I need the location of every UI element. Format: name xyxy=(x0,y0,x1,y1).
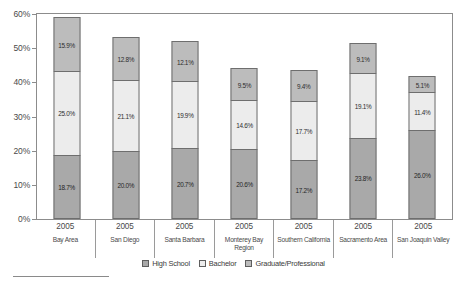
bar-group: 15.9%25.0%18.7% xyxy=(37,14,96,219)
bar-segment-label: 12.1% xyxy=(174,58,197,65)
bar-segment-label: 19.1% xyxy=(352,103,375,110)
bar-segment-label: 9.5% xyxy=(233,81,256,88)
y-tick-label: 20% xyxy=(14,146,30,156)
bar-segment: 21.1% xyxy=(112,80,139,152)
bar-segment: 25.0% xyxy=(53,71,80,156)
x-axis-year-label: 2005 xyxy=(155,222,214,231)
x-axis-category: 2005Southern California xyxy=(274,220,334,258)
x-axis-region-label: Southern California xyxy=(274,236,333,244)
x-axis-year-label: 2005 xyxy=(274,222,333,231)
x-axis-year-label: 2005 xyxy=(36,222,95,231)
bar-segment: 5.1% xyxy=(409,76,436,93)
x-axis-region-label: Santa Barbara xyxy=(155,236,214,244)
bar-group: 12.1%19.9%20.7% xyxy=(156,14,215,219)
x-axis-region-label: Monterey Bay Region xyxy=(215,236,274,251)
legend-label: Bachelor xyxy=(209,259,237,268)
bar-segment-label: 19.9% xyxy=(174,112,197,119)
bar-segment: 9.5% xyxy=(231,68,258,100)
bar-segment-label: 21.1% xyxy=(114,112,137,119)
bar-segment: 23.8% xyxy=(350,138,377,219)
y-tick-label: 50% xyxy=(14,43,30,53)
x-axis-category: 2005Bay Area xyxy=(36,220,96,258)
legend-label: Graduate/Professional xyxy=(255,259,324,268)
stacked-bar: 12.8%21.1%20.0% xyxy=(112,38,139,219)
legend-swatch-icon xyxy=(245,260,252,267)
bar-segment: 9.1% xyxy=(350,43,377,74)
scan-artifact-rule xyxy=(13,276,109,277)
x-axis-region-label: Sacramento Area xyxy=(334,236,393,244)
bar-segment-label: 17.2% xyxy=(292,186,315,193)
y-tick-label: 0% xyxy=(18,214,30,224)
x-axis-year-label: 2005 xyxy=(96,222,155,231)
legend-item[interactable]: Bachelor xyxy=(199,259,237,268)
x-axis-category-band: 2005Bay Area2005San Diego2005Santa Barba… xyxy=(36,220,453,258)
y-axis: 60%50%40%30%20%10%0% xyxy=(0,13,34,220)
y-tick-label: 10% xyxy=(14,180,30,190)
x-axis-region-label: Bay Area xyxy=(36,236,95,244)
bar-segment: 17.7% xyxy=(290,101,317,161)
x-axis-category: 2005San Joaquin Valley xyxy=(393,220,453,258)
bar-segment: 11.4% xyxy=(409,92,436,131)
bar-segment: 26.0% xyxy=(409,130,436,219)
bar-segment: 9.4% xyxy=(290,70,317,102)
bar-segment: 20.0% xyxy=(112,151,139,219)
bar-group: 5.1%11.4%26.0% xyxy=(393,14,452,219)
bar-segment-label: 9.1% xyxy=(352,55,375,62)
x-axis-category: 2005Santa Barbara xyxy=(155,220,215,258)
bar-group: 12.8%21.1%20.0% xyxy=(96,14,155,219)
bar-segment: 12.8% xyxy=(112,37,139,81)
bar-segment: 12.1% xyxy=(172,41,199,82)
bar-group: 9.1%19.1%23.8% xyxy=(333,14,392,219)
bar-segment-label: 18.7% xyxy=(55,184,78,191)
y-tick-label: 30% xyxy=(14,112,30,122)
stacked-bar: 9.1%19.1%23.8% xyxy=(350,44,377,219)
stacked-bar-chart: 60%50%40%30%20%10%0% 15.9%25.0%18.7%12.8… xyxy=(0,0,467,284)
x-axis-year-label: 2005 xyxy=(393,222,453,231)
bar-segment-label: 5.1% xyxy=(411,81,434,88)
bar-segment-label: 12.8% xyxy=(114,55,137,62)
bars-container: 15.9%25.0%18.7%12.8%21.1%20.0%12.1%19.9%… xyxy=(37,14,452,219)
bar-segment-label: 20.0% xyxy=(114,181,137,188)
bar-group: 9.5%14.6%20.6% xyxy=(215,14,274,219)
y-tick-label: 60% xyxy=(14,9,30,19)
bar-segment: 15.9% xyxy=(53,17,80,71)
bar-segment: 20.7% xyxy=(172,148,199,219)
x-axis-year-label: 2005 xyxy=(334,222,393,231)
legend-swatch-icon xyxy=(199,260,206,267)
stacked-bar: 9.4%17.7%17.2% xyxy=(290,71,317,219)
bar-segment: 14.6% xyxy=(231,100,258,150)
bar-segment-label: 26.0% xyxy=(411,171,434,178)
x-axis-region-label: San Diego xyxy=(96,236,155,244)
bar-segment-label: 20.7% xyxy=(174,180,197,187)
x-axis-year-label: 2005 xyxy=(215,222,274,231)
bar-group: 9.4%17.7%17.2% xyxy=(274,14,333,219)
stacked-bar: 9.5%14.6%20.6% xyxy=(231,69,258,219)
x-axis-category: 2005San Diego xyxy=(96,220,156,258)
y-tick-label: 40% xyxy=(14,77,30,87)
bar-segment-label: 20.6% xyxy=(233,180,256,187)
stacked-bar: 12.1%19.9%20.7% xyxy=(172,42,199,219)
legend-item[interactable]: High School xyxy=(142,259,190,268)
bar-segment: 19.1% xyxy=(350,73,377,138)
bar-segment-label: 23.8% xyxy=(352,175,375,182)
bar-segment-label: 14.6% xyxy=(233,121,256,128)
x-axis-region-label: San Joaquin Valley xyxy=(393,236,453,244)
legend-swatch-icon xyxy=(142,260,149,267)
stacked-bar: 5.1%11.4%26.0% xyxy=(409,77,436,219)
bar-segment: 19.9% xyxy=(172,81,199,149)
chart-legend: High SchoolBachelorGraduate/Professional xyxy=(0,259,467,268)
bar-segment-label: 9.4% xyxy=(292,82,315,89)
bar-segment: 17.2% xyxy=(290,160,317,219)
stacked-bar: 15.9%25.0%18.7% xyxy=(53,18,80,219)
bar-segment: 20.6% xyxy=(231,149,258,219)
x-axis-category: 2005Monterey Bay Region xyxy=(215,220,275,258)
bar-segment: 18.7% xyxy=(53,155,80,219)
bar-segment-label: 11.4% xyxy=(411,108,434,115)
bar-segment-label: 25.0% xyxy=(55,110,78,117)
bar-segment-label: 17.7% xyxy=(292,128,315,135)
bar-segment-label: 15.9% xyxy=(55,41,78,48)
x-axis-category: 2005Sacramento Area xyxy=(334,220,394,258)
legend-label: High School xyxy=(152,259,190,268)
legend-item[interactable]: Graduate/Professional xyxy=(245,259,324,268)
